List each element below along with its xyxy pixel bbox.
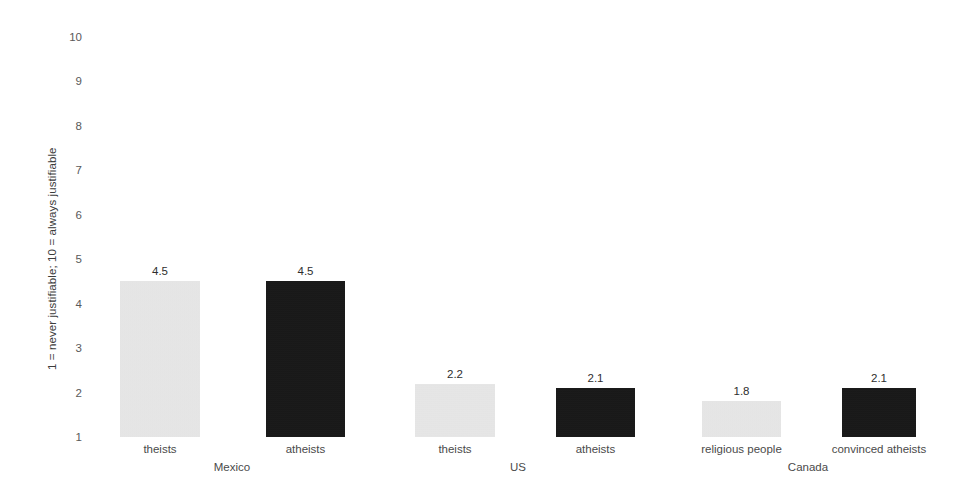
- plot-area: 4.5theists4.5atheists2.2theists2.1atheis…: [95, 0, 967, 492]
- category-label: convinced atheists: [812, 443, 946, 456]
- y-axis-tick-label: 7: [56, 164, 82, 176]
- bar: [120, 281, 200, 437]
- bar: [415, 384, 495, 437]
- group-label: US: [458, 461, 578, 474]
- y-axis-tick-label: 10: [56, 31, 82, 43]
- category-label: theists: [385, 443, 525, 456]
- category-label: atheists: [236, 443, 375, 456]
- y-axis-tick-label: 3: [56, 342, 82, 354]
- y-axis-tick-label: 4: [56, 298, 82, 310]
- y-axis-tick-label: 2: [56, 387, 82, 399]
- y-axis-tick-label: 9: [56, 75, 82, 87]
- bar: [556, 388, 635, 437]
- group-label: Canada: [748, 461, 868, 474]
- bar-value-label: 4.5: [266, 265, 345, 278]
- bar: [266, 281, 345, 437]
- bar-value-label: 4.5: [120, 265, 200, 278]
- y-axis-tick-label: 8: [56, 120, 82, 132]
- bar: [842, 388, 916, 437]
- bar-value-label: 2.1: [556, 372, 635, 385]
- category-label: religious people: [672, 443, 811, 456]
- category-label: atheists: [526, 443, 665, 456]
- y-axis-tick-label: 5: [56, 253, 82, 265]
- bar-value-label: 2.1: [842, 372, 916, 385]
- category-label: theists: [90, 443, 230, 456]
- bar-value-label: 2.2: [415, 368, 495, 381]
- y-axis-ticks: 10987654321: [56, 0, 82, 492]
- bar: [702, 401, 781, 437]
- group-label: Mexico: [172, 461, 292, 474]
- bar-value-label: 1.8: [702, 385, 781, 398]
- bar-chart: 1 = never justifiable; 10 = always justi…: [0, 0, 967, 492]
- y-axis-tick-label: 6: [56, 209, 82, 221]
- y-axis-tick-label: 1: [56, 431, 82, 443]
